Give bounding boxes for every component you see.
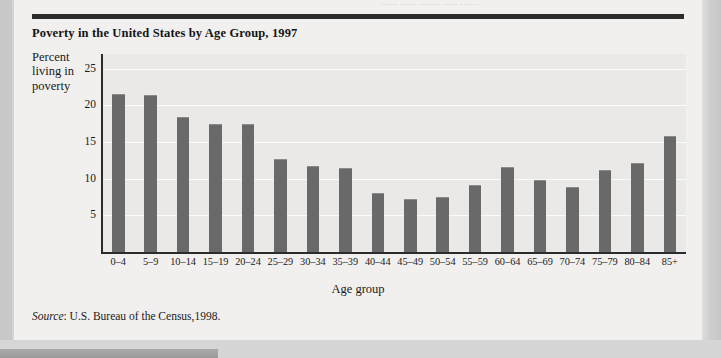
top-bleed-text: ······ ····· ······· ····· ······ (380, 0, 700, 9)
y-axis-tick-label: 10 (70, 173, 96, 184)
page-bottom-dark-strip (0, 349, 218, 358)
source-text: : U.S. Bureau of the Census,1998. (64, 310, 221, 322)
y-axis-tick-label: 5 (70, 209, 96, 220)
x-axis-tick-label: 85+ (646, 256, 694, 267)
y-axis-tick-label: 20 (70, 99, 96, 110)
x-axis-title: Age group (14, 282, 702, 297)
source-label: Source (32, 310, 64, 322)
y-axis-tick-label: 15 (70, 136, 96, 147)
figure-source-note: Source: U.S. Bureau of the Census,1998. (32, 310, 220, 322)
page-right-edge-shadow (702, 0, 721, 358)
y-axis-tick-label: 25 (70, 63, 96, 74)
figure-container: Poverty in the United States by Age Grou… (14, 14, 702, 330)
scanned-page-background: ······ ····· ······· ····· ······ Povert… (0, 0, 721, 358)
